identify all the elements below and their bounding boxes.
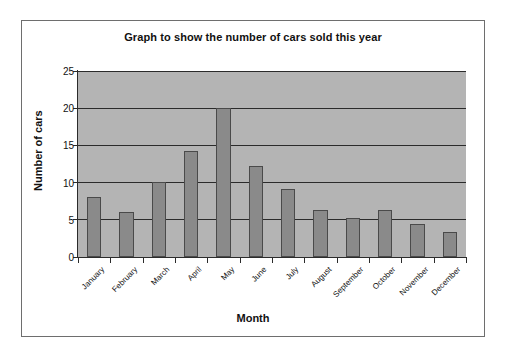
x-axis-tick-mark <box>175 258 176 263</box>
x-axis-tick-label: October <box>371 265 397 291</box>
x-axis-tick-label: March <box>149 265 171 287</box>
x-axis-tick-label: February <box>110 265 139 294</box>
y-axis-tick-mark <box>73 145 78 146</box>
y-axis-tick-labels: 0510152025 <box>48 71 74 257</box>
x-axis-tick-label: June <box>250 265 269 284</box>
bar <box>249 166 263 257</box>
gridline <box>78 108 466 109</box>
gridline <box>78 145 466 146</box>
chart-title: Graph to show the number of cars sold th… <box>22 31 484 43</box>
y-axis-tick-label: 15 <box>52 140 74 151</box>
bar <box>119 212 133 257</box>
bar <box>313 210 327 257</box>
chart-frame: Graph to show the number of cars sold th… <box>21 20 485 337</box>
bar <box>152 182 166 257</box>
x-axis-tick-label: July <box>284 265 300 281</box>
x-axis-tick-label: May <box>219 265 236 282</box>
x-axis-tick-label: January <box>80 265 106 291</box>
gridline <box>78 71 466 72</box>
x-axis-tick-mark <box>207 258 208 263</box>
y-axis-tick-mark <box>73 219 78 220</box>
gridline <box>78 219 466 220</box>
x-axis-tick-mark <box>401 258 402 263</box>
x-axis-tick-mark <box>434 258 435 263</box>
x-axis-tick-label: April <box>186 265 204 283</box>
x-axis-tick-mark <box>143 258 144 263</box>
bar <box>410 224 424 257</box>
bar <box>216 108 230 257</box>
x-axis-tick-mark <box>304 258 305 263</box>
y-axis-tick-label: 10 <box>52 177 74 188</box>
bar <box>87 197 101 257</box>
x-axis-tick-mark <box>240 258 241 263</box>
y-axis-tick-label: 5 <box>52 214 74 225</box>
bar <box>184 151 198 257</box>
y-axis-title: Number of cars <box>32 76 48 226</box>
y-axis-tick-label: 25 <box>52 66 74 77</box>
x-axis-tick-label: August <box>309 265 333 289</box>
plot-area <box>78 71 466 257</box>
bar <box>346 218 360 257</box>
y-axis-tick-mark <box>73 108 78 109</box>
x-axis-tick-mark <box>78 258 79 263</box>
bar <box>443 232 457 257</box>
x-axis-tick-mark <box>369 258 370 263</box>
x-axis-tick-label: November <box>397 265 429 297</box>
y-axis-tick-mark <box>73 71 78 72</box>
gridline <box>78 182 466 183</box>
x-axis-tick-mark <box>272 258 273 263</box>
x-axis-tick-label: December <box>430 265 462 297</box>
x-axis-tick-mark <box>110 258 111 263</box>
y-axis-tick-mark <box>73 182 78 183</box>
bar <box>281 189 295 257</box>
x-axis-title: Month <box>22 312 484 324</box>
y-axis-tick-label: 20 <box>52 103 74 114</box>
bar <box>378 210 392 257</box>
x-axis-tick-mark <box>466 258 467 263</box>
x-axis-tick-label: September <box>331 265 365 299</box>
y-axis-tick-label: 0 <box>52 252 74 263</box>
x-axis-tick-mark <box>337 258 338 263</box>
